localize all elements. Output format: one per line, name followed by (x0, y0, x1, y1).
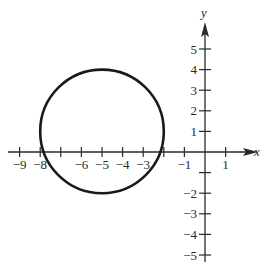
x-tick-label: −4 (116, 157, 130, 172)
x-tick-label: −8 (33, 157, 47, 172)
axes (8, 22, 258, 262)
plot-curves (40, 70, 164, 194)
coordinate-plane: −9−8−6−5−4−3−1154321−2−3−4−5 x y (0, 0, 266, 265)
y-tick-label: 3 (191, 83, 198, 98)
x-tick-label: −9 (13, 157, 27, 172)
y-tick-label: −2 (183, 186, 197, 201)
y-tick-label: 4 (191, 62, 198, 77)
y-tick-label: −5 (183, 248, 197, 263)
circle-curve (40, 70, 164, 194)
x-tick-label: −6 (74, 157, 88, 172)
x-tick-label: −3 (136, 157, 150, 172)
y-tick-label: 2 (191, 103, 198, 118)
x-axis-label: x (253, 144, 260, 159)
y-tick-label: −4 (183, 227, 197, 242)
x-tick-label: −5 (95, 157, 109, 172)
y-tick-label: 5 (191, 42, 198, 57)
x-tick-label: −1 (177, 157, 191, 172)
y-axis-label: y (199, 5, 207, 20)
x-tick-label: 1 (222, 157, 229, 172)
y-tick-label: 1 (191, 124, 198, 139)
y-tick-label: −3 (183, 206, 197, 221)
